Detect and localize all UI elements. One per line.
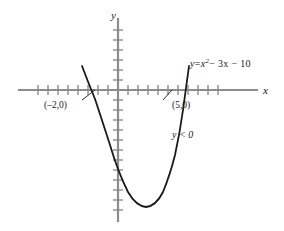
root-right-label: (5,0) bbox=[172, 101, 190, 111]
quadratic-graph-figure: y x y=x2− 3x − 10 (–2,0) (5,0) y < 0 bbox=[0, 0, 284, 231]
graph-canvas bbox=[0, 0, 284, 231]
y-axis-label: y bbox=[111, 10, 116, 21]
equation-remainder: − 3x − 10 bbox=[209, 58, 250, 69]
inequality-label: y < 0 bbox=[172, 130, 193, 140]
equation-label: y=x2− 3x − 10 bbox=[190, 59, 251, 69]
x-axis-label: x bbox=[263, 85, 268, 96]
root-left-label: (–2,0) bbox=[44, 101, 67, 111]
